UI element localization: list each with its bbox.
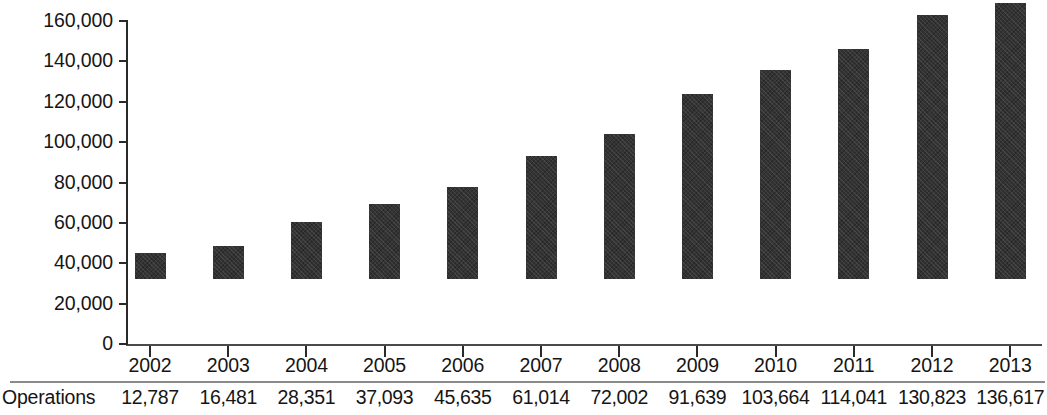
table-value-cell: 103,664 [733, 387, 819, 408]
y-axis-tick-label: 100,000 [3, 132, 113, 152]
x-axis-spine [126, 344, 1042, 346]
y-axis-tick-label: 60,000 [3, 213, 113, 233]
y-axis-tick-mark [119, 262, 128, 264]
data-table: 2002200320042005200620072008200920102011… [0, 350, 1047, 415]
bar [995, 3, 1026, 279]
table-value-cell: 28,351 [263, 387, 349, 408]
x-axis-year-label: 2002 [107, 355, 193, 376]
y-axis-tick-mark [119, 343, 128, 345]
bar [213, 246, 244, 279]
x-axis-year-label: 2009 [654, 355, 740, 376]
x-axis-year-label: 2007 [498, 355, 584, 376]
table-separator [10, 381, 1045, 383]
bar [682, 94, 713, 279]
table-value-cell: 91,639 [654, 387, 740, 408]
table-row-label: Operations [2, 387, 95, 408]
x-axis-year-label: 2004 [263, 355, 349, 376]
table-value-cell: 130,823 [889, 387, 975, 408]
table-value-cell: 136,617 [967, 387, 1047, 408]
bar [760, 70, 791, 279]
plot-area: 020,00040,00060,00080,000100,000120,0001… [0, 0, 1047, 350]
x-axis-year-label: 2013 [967, 355, 1047, 376]
bar [838, 49, 869, 279]
y-axis-tick-label: 40,000 [3, 253, 113, 273]
bar [447, 187, 478, 279]
y-axis-tick-mark [119, 141, 128, 143]
y-axis-tick-mark [119, 101, 128, 103]
bar [604, 134, 635, 279]
y-axis-tick-mark [119, 222, 128, 224]
table-value-cell: 12,787 [107, 387, 193, 408]
x-axis-year-label: 2008 [576, 355, 662, 376]
table-value-cell: 37,093 [342, 387, 428, 408]
y-axis-tick-label: 120,000 [3, 92, 113, 112]
bar [526, 156, 557, 279]
table-value-cell: 72,002 [576, 387, 662, 408]
x-axis-year-label: 2011 [811, 355, 897, 376]
x-axis-year-label: 2005 [342, 355, 428, 376]
table-value-cell: 61,014 [498, 387, 584, 408]
y-axis-tick-label: 20,000 [3, 294, 113, 314]
x-axis-year-label: 2012 [889, 355, 975, 376]
bar [135, 253, 166, 279]
x-axis-year-label: 2010 [733, 355, 819, 376]
table-value-cell: 114,041 [811, 387, 897, 408]
table-value-cell: 45,635 [420, 387, 506, 408]
bar [291, 222, 322, 279]
y-axis-tick-mark [119, 182, 128, 184]
y-axis-tick-mark [119, 303, 128, 305]
operations-bar-chart: 020,00040,00060,00080,000100,000120,0001… [0, 0, 1047, 415]
y-axis-tick-mark [119, 20, 128, 22]
y-axis-tick-mark [119, 60, 128, 62]
y-axis-tick-label: 160,000 [3, 11, 113, 31]
bar [917, 15, 948, 279]
y-axis-tick-label: 80,000 [3, 173, 113, 193]
x-axis-year-label: 2003 [185, 355, 271, 376]
y-axis-tick-label: 140,000 [3, 51, 113, 71]
bar [369, 204, 400, 279]
x-axis-year-label: 2006 [420, 355, 506, 376]
table-value-cell: 16,481 [185, 387, 271, 408]
y-axis-spine [126, 21, 128, 346]
